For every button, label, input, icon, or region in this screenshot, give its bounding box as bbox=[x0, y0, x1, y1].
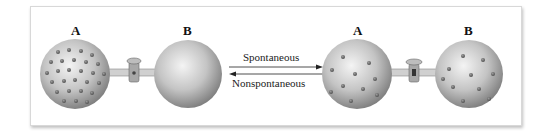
flask-b-label-left: B bbox=[183, 23, 192, 39]
flask-b-left bbox=[154, 40, 222, 108]
nonspontaneous-label: Nonspontaneous bbox=[232, 77, 305, 89]
left-apparatus bbox=[40, 39, 222, 109]
flask-a-label-right: A bbox=[353, 23, 362, 39]
spontaneous-label: Spontaneous bbox=[243, 51, 299, 63]
right-apparatus bbox=[322, 39, 503, 109]
reaction-arrows bbox=[229, 65, 323, 77]
diagram-frame: A B A B Spontaneous Nonspontaneous bbox=[30, 6, 522, 126]
flask-a-left bbox=[40, 39, 110, 109]
flask-a-label-left: A bbox=[71, 23, 80, 39]
flask-b-label-right: B bbox=[464, 23, 473, 39]
expansion-diagram bbox=[31, 7, 521, 125]
